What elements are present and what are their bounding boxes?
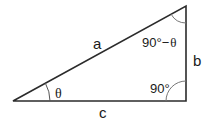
angle-label-complement-prefix: 90°− [142, 35, 169, 50]
angle-label-complement: 90°−θ [142, 35, 177, 50]
side-label-c: c [99, 104, 107, 121]
theta-angle-arc [45, 83, 50, 101]
side-label-b: b [193, 52, 201, 69]
angle-label-right: 90° [150, 81, 170, 96]
complement-angle-arc [171, 14, 186, 23]
side-label-a: a [93, 35, 102, 52]
angle-label-complement-theta: θ [170, 35, 176, 50]
angle-label-theta: θ [55, 86, 62, 101]
right-triangle-diagram: a b c θ 90°−θ 90° [0, 0, 214, 122]
